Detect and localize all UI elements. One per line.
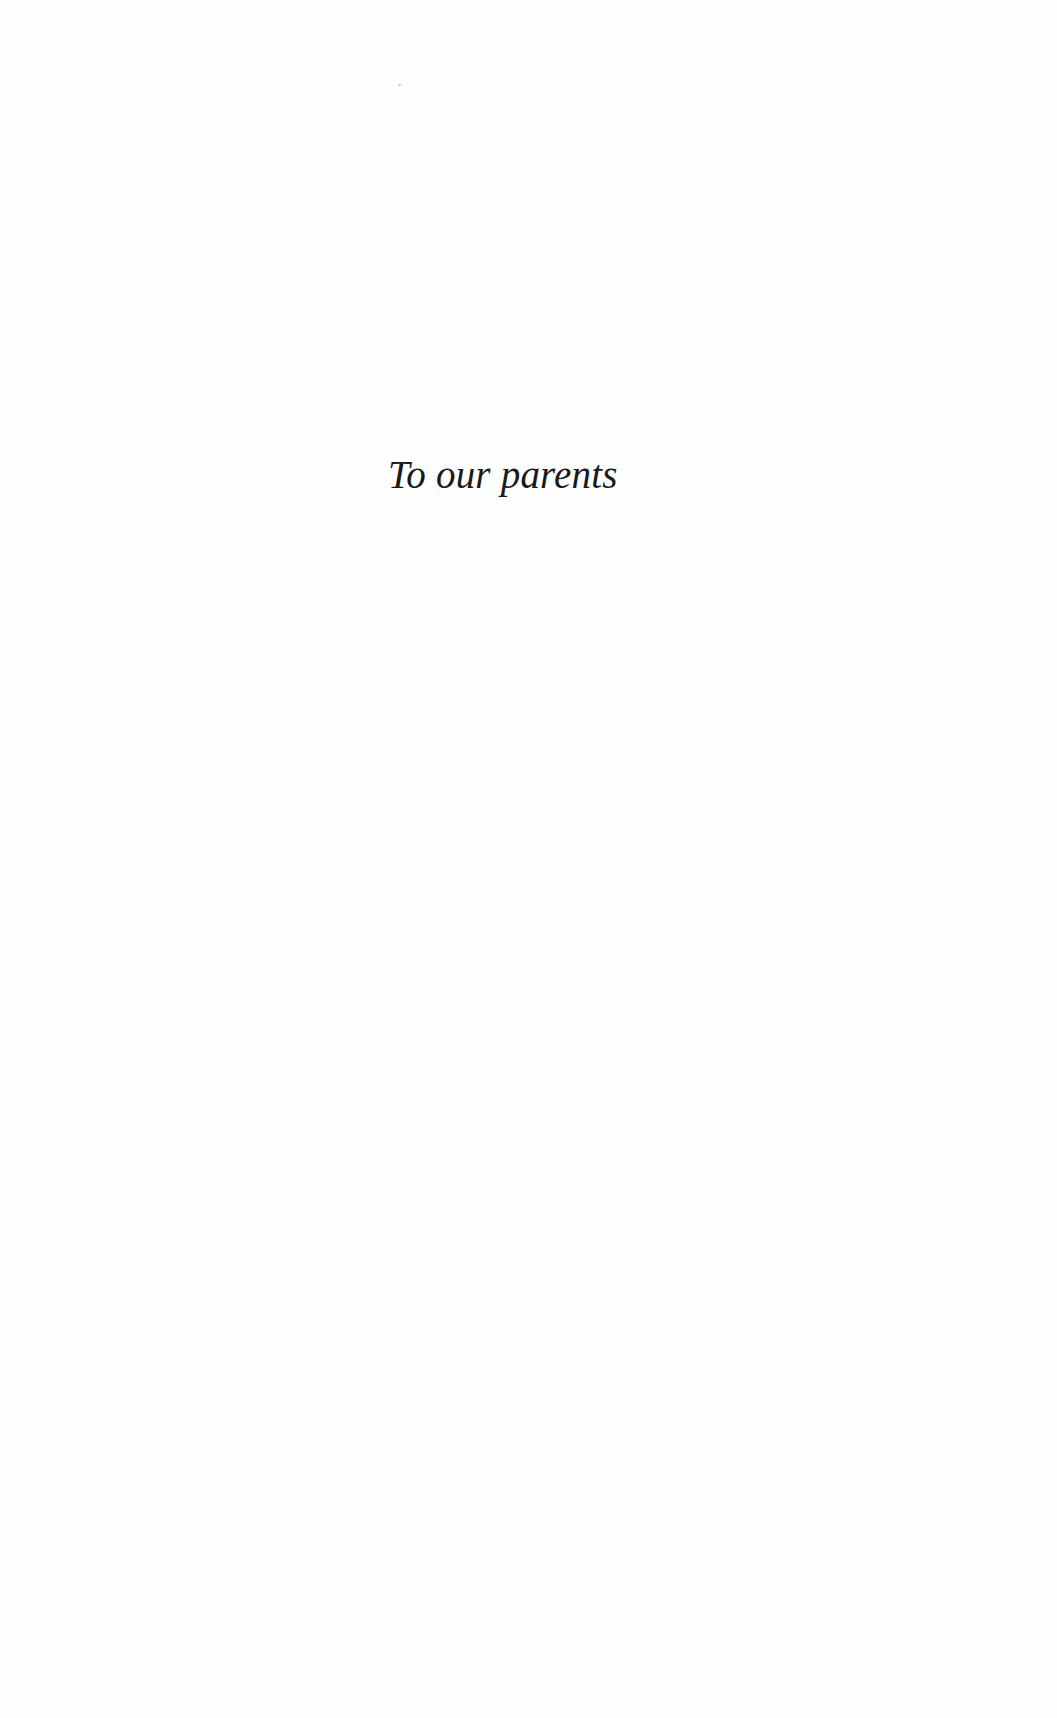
dedication-text: To our parents — [388, 447, 618, 503]
book-page: To our parents — [0, 0, 1057, 1718]
scan-speck — [398, 84, 401, 86]
